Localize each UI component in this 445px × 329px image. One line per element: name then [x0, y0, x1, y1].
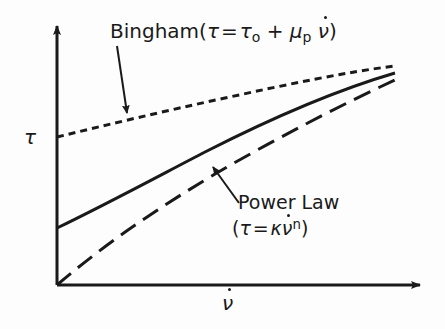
bingham-tau-subscript: o [252, 29, 261, 45]
bingham-open-paren: ( [199, 19, 207, 43]
bingham-nu-dot: ν [318, 20, 329, 42]
curve-bingham [57, 66, 395, 137]
bingham-equals: = [221, 19, 238, 43]
rheology-figure: Bingham(τ = τo + μp ν) Power Law (τ = κν… [0, 0, 445, 329]
y-axis-label: τ [24, 126, 36, 148]
power-law-tau: τ [239, 217, 250, 239]
power-law-exponent: n [292, 217, 300, 232]
power-law-equals: = [253, 217, 269, 239]
bingham-tau: τ [207, 19, 219, 43]
bingham-leader-arrow [117, 46, 127, 113]
plot-canvas [0, 0, 445, 329]
bingham-mu-symbol: μ [290, 19, 303, 43]
power-law-close-paren: ) [301, 217, 308, 239]
curve-power-law [57, 80, 395, 285]
power-law-annotation-formula: (τ = κνn) [232, 218, 308, 239]
bingham-tau-symbol: τ [240, 19, 252, 43]
x-axis-label-glyph: ν [222, 292, 233, 314]
power-law-nu-dot: ν [282, 218, 293, 239]
bingham-name: Bingham [110, 19, 199, 43]
power-law-annotation-name: Power Law [238, 192, 339, 213]
x-axis-label: ν [222, 292, 233, 314]
bingham-mu-subscript: p [303, 29, 312, 45]
bingham-annotation: Bingham(τ = τo + μp ν) [110, 20, 337, 45]
power-law-leader-arrow [213, 167, 239, 203]
power-law-name: Power Law [238, 191, 339, 213]
bingham-close-paren: ) [329, 19, 337, 43]
power-law-kappa: κ [271, 217, 282, 239]
bingham-plus: + [267, 19, 284, 43]
